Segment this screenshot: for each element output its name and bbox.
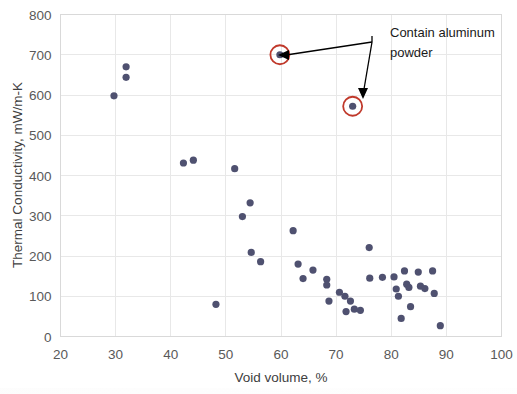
data-point xyxy=(309,266,316,273)
x-tick-label: 20 xyxy=(53,347,68,362)
x-tick-label: 60 xyxy=(273,347,288,362)
y-tick-label: 200 xyxy=(29,249,52,264)
data-point xyxy=(323,281,330,288)
x-tick-label: 50 xyxy=(218,347,233,362)
y-tick-label: 500 xyxy=(29,128,52,143)
annotation-line-1: Contain aluminum xyxy=(390,25,495,40)
x-tick-label: 80 xyxy=(384,347,399,362)
data-point xyxy=(415,269,422,276)
data-point xyxy=(180,159,187,166)
data-point xyxy=(407,303,414,310)
leader-line-left xyxy=(286,42,372,55)
gridlines xyxy=(61,15,502,337)
y-tick-label: 0 xyxy=(44,330,52,345)
data-point xyxy=(351,306,358,313)
data-point xyxy=(110,92,117,99)
data-point xyxy=(437,322,444,329)
x-axis-title: Void volume, % xyxy=(234,370,327,385)
scatter-chart: 0100200300400500600700800 20304050607080… xyxy=(0,0,517,394)
x-tick-label: 30 xyxy=(108,347,123,362)
x-tick-label: 40 xyxy=(163,347,178,362)
leader-line-down xyxy=(363,42,372,95)
data-point xyxy=(431,290,438,297)
data-point xyxy=(379,274,386,281)
data-point xyxy=(290,227,297,234)
y-axis-ticks: 0100200300400500600700800 xyxy=(29,8,52,345)
data-point xyxy=(366,275,373,282)
chart-canvas: 0100200300400500600700800 20304050607080… xyxy=(0,0,517,394)
data-point xyxy=(248,249,255,256)
data-point xyxy=(347,297,354,304)
data-point xyxy=(247,199,254,206)
data-point xyxy=(342,308,349,315)
data-point xyxy=(341,293,348,300)
data-point xyxy=(398,315,405,322)
data-point xyxy=(395,293,402,300)
annotation-line-2: powder xyxy=(390,45,433,60)
arrowhead-down xyxy=(358,88,368,99)
data-point xyxy=(405,284,412,291)
data-point xyxy=(357,307,364,314)
data-point xyxy=(393,285,400,292)
data-point xyxy=(401,267,408,274)
data-point xyxy=(325,297,332,304)
y-tick-label: 400 xyxy=(29,169,52,184)
data-points xyxy=(110,51,444,329)
y-axis-title: Thermal Conductivity, mW/m-K xyxy=(10,82,25,268)
data-point xyxy=(122,74,129,81)
data-point xyxy=(257,258,264,265)
page-footer-strip xyxy=(0,388,517,394)
data-point xyxy=(239,213,246,220)
y-tick-label: 800 xyxy=(29,8,52,23)
data-point xyxy=(429,267,436,274)
data-point xyxy=(366,244,373,251)
y-tick-label: 100 xyxy=(29,289,52,304)
x-tick-label: 90 xyxy=(439,347,454,362)
data-point xyxy=(299,275,306,282)
data-point xyxy=(390,273,397,280)
x-axis-ticks: 2030405060708090100 xyxy=(53,347,513,362)
y-tick-label: 300 xyxy=(29,209,52,224)
data-point xyxy=(190,157,197,164)
data-point xyxy=(231,165,238,172)
y-tick-label: 700 xyxy=(29,48,52,63)
y-tick-label: 600 xyxy=(29,88,52,103)
data-point xyxy=(294,260,301,267)
annotation-leader-lines xyxy=(278,36,372,99)
x-tick-label: 70 xyxy=(329,347,344,362)
data-point xyxy=(122,63,129,70)
data-point xyxy=(212,301,219,308)
data-point xyxy=(349,103,356,110)
data-point xyxy=(421,285,428,292)
x-tick-label: 100 xyxy=(490,347,513,362)
